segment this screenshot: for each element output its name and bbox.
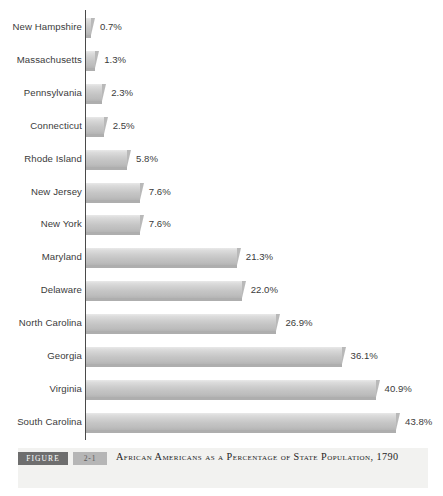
bar-fill — [86, 183, 140, 200]
table-row: Maryland21.3% — [0, 244, 443, 270]
bar — [86, 347, 342, 365]
bar-value-label: 7.6% — [149, 179, 171, 205]
table-row: Rhode Island5.8% — [0, 146, 443, 172]
bar — [86, 51, 95, 69]
bar-fill — [86, 281, 242, 298]
bar-value-label: 43.8% — [405, 409, 432, 435]
bar — [86, 380, 376, 398]
bar-value-label: 1.3% — [104, 47, 126, 73]
bar-fill — [86, 51, 95, 68]
bar — [86, 117, 104, 135]
table-row: New York7.6% — [0, 211, 443, 237]
bar-fill — [86, 117, 104, 134]
bar — [86, 18, 91, 36]
bar-category-label: Delaware — [41, 277, 82, 303]
bar-value-label: 2.3% — [111, 80, 133, 106]
bar-value-label: 22.0% — [251, 277, 278, 303]
table-row: Georgia36.1% — [0, 343, 443, 369]
bar — [86, 314, 276, 332]
bar-category-label: South Carolina — [17, 409, 82, 435]
bar-category-label: New Hampshire — [12, 14, 82, 40]
bar-value-label: 7.6% — [149, 211, 171, 237]
figure-caption: FIGURE 2-1 African Americans as a Percen… — [18, 450, 430, 488]
bar-category-label: Massachusetts — [17, 47, 82, 73]
bar-category-label: Rhode Island — [24, 146, 82, 172]
bar-value-label: 36.1% — [351, 343, 378, 369]
bar-category-label: New York — [41, 211, 82, 237]
bar — [86, 281, 242, 299]
caption-title-line2: 1790 — [377, 451, 399, 462]
bar-fill — [86, 314, 276, 331]
bar — [86, 84, 102, 102]
bar-value-label: 2.5% — [113, 113, 135, 139]
bar-category-label: North Carolina — [19, 310, 82, 336]
bar-fill — [86, 380, 376, 397]
bar-value-label: 5.8% — [136, 146, 158, 172]
figure-container: New Hampshire0.7%Massachusetts1.3%Pennsy… — [0, 0, 443, 496]
caption-title-line1: African Americans as a Percentage of Sta… — [116, 451, 374, 462]
bar-fill — [86, 150, 127, 167]
table-row: South Carolina43.8% — [0, 409, 443, 435]
bar — [86, 183, 140, 201]
bar-category-label: Connecticut — [30, 113, 82, 139]
table-row: Virginia40.9% — [0, 376, 443, 402]
bar-fill — [86, 347, 342, 364]
bar — [86, 413, 396, 431]
bar-category-label: Maryland — [42, 244, 82, 270]
bar-value-label: 0.7% — [100, 14, 122, 40]
table-row: New Hampshire0.7% — [0, 14, 443, 40]
bar — [86, 150, 127, 168]
table-row: Delaware22.0% — [0, 277, 443, 303]
bar-value-label: 21.3% — [246, 244, 273, 270]
table-row: Massachusetts1.3% — [0, 47, 443, 73]
bar-fill — [86, 248, 237, 265]
bar-fill — [86, 413, 396, 430]
figure-label-badge: FIGURE — [18, 452, 68, 465]
bar — [86, 248, 237, 266]
bar-category-label: Pennsylvania — [24, 80, 82, 106]
bar-category-label: Virginia — [49, 376, 82, 402]
table-row: North Carolina26.9% — [0, 310, 443, 336]
table-row: Connecticut2.5% — [0, 113, 443, 139]
bar-fill — [86, 18, 91, 35]
figure-number-badge: 2-1 — [73, 452, 107, 465]
bar-fill — [86, 215, 140, 232]
bar-value-label: 40.9% — [385, 376, 412, 402]
bar-category-label: New Jersey — [31, 179, 82, 205]
bar — [86, 215, 140, 233]
caption-title: African Americans as a Percentage of Sta… — [116, 449, 428, 465]
bar-chart-plot: New Hampshire0.7%Massachusetts1.3%Pennsy… — [0, 0, 443, 440]
bar-category-label: Georgia — [47, 343, 82, 369]
bar-value-label: 26.9% — [285, 310, 312, 336]
bar-fill — [86, 84, 102, 101]
table-row: Pennsylvania2.3% — [0, 80, 443, 106]
table-row: New Jersey7.6% — [0, 179, 443, 205]
